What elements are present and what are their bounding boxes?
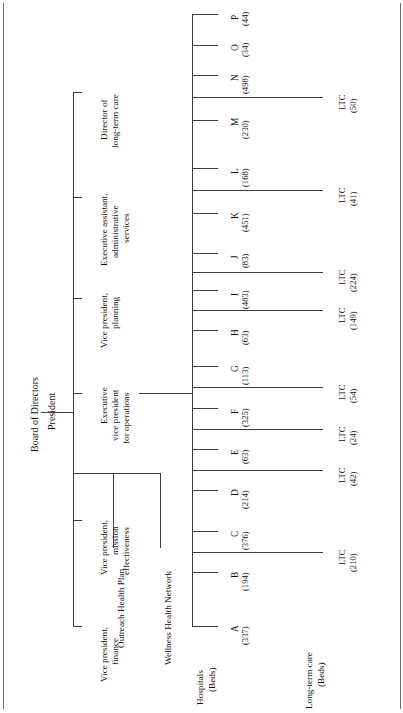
subsidiary-to-spine bbox=[73, 473, 113, 474]
exec-eaas-line1: Executive assistant, bbox=[100, 194, 110, 266]
branch-hospital-E bbox=[192, 449, 218, 450]
branch-hospital-D bbox=[192, 490, 218, 491]
hospital-label-F: F bbox=[230, 409, 240, 414]
hospital-beds-P: (44) bbox=[241, 12, 250, 26]
exec-spine bbox=[73, 92, 74, 627]
hospital-beds-D: (214) bbox=[241, 490, 250, 509]
ltc-beds-1: (210) bbox=[349, 553, 358, 572]
subsidiary-ohp-label: Outreach Health Plan bbox=[117, 569, 127, 648]
branch-hospital-I bbox=[192, 290, 218, 291]
hospital-beds-O: (34) bbox=[241, 43, 250, 57]
ltc-label-5: LTC bbox=[338, 308, 347, 323]
hospital-label-L: L bbox=[230, 168, 240, 174]
president-to-spine bbox=[51, 412, 74, 413]
exec-vpf-line1: Vice president, bbox=[100, 627, 110, 682]
hospital-beds-J: (83) bbox=[241, 254, 250, 268]
hospital-label-C: C bbox=[230, 531, 240, 537]
branch-hospital-J bbox=[192, 253, 218, 254]
hospital-label-N: N bbox=[230, 74, 240, 81]
president-connector bbox=[41, 412, 51, 413]
branch-hospital-M bbox=[192, 120, 218, 121]
ltc-label-4: LTC bbox=[338, 385, 347, 400]
hospital-beds-E: (63) bbox=[241, 450, 250, 464]
ltc-beds-3: (24) bbox=[349, 431, 358, 445]
branch-hospital-A bbox=[192, 626, 218, 627]
ltc-beds-4: (54) bbox=[349, 389, 358, 403]
ltc-beds-2: (42) bbox=[349, 472, 358, 486]
evpo-to-hospital-spine bbox=[139, 393, 192, 394]
hospital-beds-A: (337) bbox=[241, 626, 250, 645]
branch-hospital-C bbox=[192, 531, 218, 532]
hospital-label-I: I bbox=[230, 293, 240, 296]
hospital-beds-B: (194) bbox=[241, 572, 250, 591]
hospital-beds-F: (325) bbox=[241, 408, 250, 427]
tick-exec-vpme bbox=[73, 520, 82, 521]
branch-hospital-G bbox=[192, 366, 218, 367]
ltc-label-2: LTC bbox=[338, 468, 347, 483]
hospital-label-O: O bbox=[230, 44, 240, 51]
tick-exec-vpp bbox=[73, 298, 82, 299]
tick-exec-dltc bbox=[73, 92, 82, 93]
tick-exec-vpf bbox=[73, 626, 82, 627]
branch-ltc-24 bbox=[192, 429, 323, 430]
exec-evpo-line1: Executive bbox=[100, 387, 110, 424]
hospital-label-A: A bbox=[230, 625, 240, 632]
hospital-beds-N: (498) bbox=[241, 75, 250, 94]
exec-vpme-line3: effectiveness bbox=[122, 527, 132, 575]
subsidiary-stem-ohp bbox=[113, 473, 114, 548]
ltc-label-7: LTC bbox=[338, 188, 347, 203]
branch-ltc-210 bbox=[192, 552, 323, 553]
ltc-beds-7: (41) bbox=[349, 192, 358, 206]
branch-hospital-N bbox=[192, 75, 218, 76]
hospital-label-M: M bbox=[230, 118, 240, 126]
exec-evpo-line2: vice president bbox=[111, 390, 121, 441]
hospital-label-K: K bbox=[230, 212, 240, 219]
exec-vpp-line1: Vice president, bbox=[100, 293, 110, 348]
branch-ltc-50 bbox=[192, 97, 323, 98]
hospital-beds-K: (451) bbox=[241, 213, 250, 232]
ltc-axis-line1: Long-term care bbox=[305, 652, 315, 709]
hospital-beds-C: (376) bbox=[241, 531, 250, 550]
exec-vpp-line2: planning bbox=[111, 297, 121, 329]
ltc-beds-6: (224) bbox=[349, 273, 358, 292]
hospital-beds-L: (168) bbox=[241, 168, 250, 187]
branch-ltc-54 bbox=[192, 387, 323, 388]
exec-vpme-line1: Vice president, bbox=[100, 520, 110, 575]
ltc-axis-line2: (Beds) bbox=[317, 663, 327, 688]
subsidiary-branch-bar bbox=[113, 473, 160, 474]
ltc-label-6: LTC bbox=[338, 270, 347, 285]
hospital-beds-G: (113) bbox=[241, 367, 250, 385]
hospital-label-B: B bbox=[230, 572, 240, 578]
exec-eaas-line2: administrative bbox=[111, 205, 121, 258]
ltc-label-3: LTC bbox=[338, 427, 347, 442]
hospital-label-G: G bbox=[230, 365, 240, 372]
hospital-beds-H: (63) bbox=[241, 331, 250, 345]
exec-dltc-line2: long-term care bbox=[111, 94, 121, 148]
hospitals-axis-line2: (Beds) bbox=[208, 668, 218, 693]
hospital-label-D: D bbox=[230, 489, 240, 496]
branch-ltc-42 bbox=[192, 470, 323, 471]
hospitals-axis-line1: Hospitals bbox=[196, 670, 206, 705]
branch-hospital-F bbox=[192, 408, 218, 409]
tick-exec-evpo bbox=[73, 393, 82, 394]
branch-hospital-B bbox=[192, 572, 218, 573]
subsidiary-whn-label: Wellness Health Network bbox=[164, 571, 174, 665]
hospital-label-H: H bbox=[230, 329, 240, 336]
subsidiary-stem-whn bbox=[160, 473, 161, 548]
exec-dltc-line1: Director of bbox=[100, 99, 110, 140]
exec-eaas-line3: services bbox=[122, 213, 132, 243]
hospital-beds-M: (230) bbox=[241, 120, 250, 139]
branch-hospital-K bbox=[192, 213, 218, 214]
hospital-label-P: P bbox=[230, 15, 240, 20]
branch-ltc-149 bbox=[192, 310, 323, 311]
branch-hospital-H bbox=[192, 330, 218, 331]
hospital-label-J: J bbox=[230, 255, 240, 259]
branch-hospital-L bbox=[192, 168, 218, 169]
ltc-label-1: LTC bbox=[338, 550, 347, 565]
tick-exec-eaas bbox=[73, 197, 82, 198]
exec-evpo-line3: for operations bbox=[122, 393, 132, 444]
ltc-label-8: LTC bbox=[338, 95, 347, 110]
branch-ltc-41 bbox=[192, 190, 323, 191]
org-chart-figure: Board of Directors President Director of… bbox=[0, 0, 403, 713]
branch-hospital-O bbox=[192, 45, 218, 46]
